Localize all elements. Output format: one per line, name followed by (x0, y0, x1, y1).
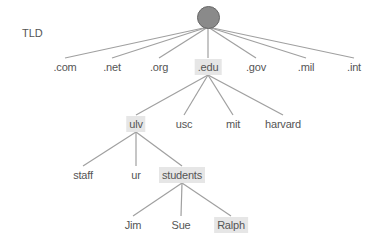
root-node (197, 6, 220, 29)
edge-root-mil (208, 27, 306, 58)
node-ulv: ulv (126, 116, 145, 132)
edge-edu-harvard (208, 75, 283, 115)
node-staff: staff (70, 167, 96, 183)
node-net: .net (100, 59, 124, 75)
node-mit: mit (223, 116, 243, 132)
node-int: .int (344, 59, 364, 75)
edge-ulv-students (136, 132, 182, 166)
edge-students-sue (181, 183, 182, 216)
node-ur: ur (128, 167, 143, 183)
node-harvard: harvard (262, 116, 304, 132)
tld-level-label: TLD (22, 27, 43, 39)
edge-root-org (159, 27, 208, 58)
node-com: .com (50, 59, 79, 75)
edge-students-ralph (182, 183, 231, 216)
node-edu: .edu (195, 59, 222, 75)
edge-students-jim (133, 183, 182, 216)
edge-ulv-staff (83, 132, 136, 166)
edge-root-com (65, 27, 208, 58)
node-gov: .gov (243, 59, 269, 75)
node-org: .org (147, 59, 171, 75)
node-students: students (159, 167, 205, 183)
node-usc: usc (173, 116, 196, 132)
edge-edu-ulv (136, 75, 208, 115)
node-ralph: Ralph (214, 217, 248, 233)
edge-root-net (112, 27, 208, 58)
edge-root-int (208, 27, 354, 58)
node-sue: Sue (169, 217, 194, 233)
node-jim: Jim (122, 217, 145, 233)
node-mil: .mil (295, 59, 317, 75)
